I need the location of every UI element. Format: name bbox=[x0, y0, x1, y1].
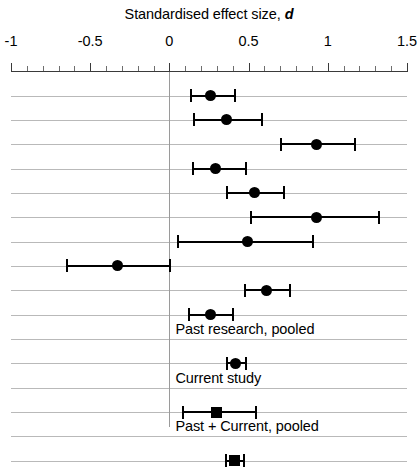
ci-cap-upper bbox=[234, 89, 236, 102]
ci-cap-lower bbox=[177, 235, 179, 248]
ci-cap-lower bbox=[193, 113, 195, 126]
x-tick-label: 1.5 bbox=[377, 33, 418, 49]
group-label: Past + Current, pooled bbox=[175, 418, 318, 434]
effect-size-marker-circle bbox=[311, 212, 322, 223]
effect-size-marker-circle bbox=[205, 90, 216, 101]
effect-size-marker-circle bbox=[249, 187, 260, 198]
effect-size-marker-circle bbox=[261, 285, 272, 296]
effect-size-marker-circle bbox=[221, 114, 232, 125]
ci-cap-lower bbox=[190, 89, 192, 102]
ci-cap-upper bbox=[283, 186, 285, 199]
chart-title: Standardised effect size,d bbox=[0, 6, 418, 22]
chart-title-symbol: d bbox=[281, 6, 294, 22]
x-tick-label: -1 bbox=[0, 33, 41, 49]
ci-cap-upper bbox=[378, 211, 380, 224]
effect-size-marker-circle bbox=[242, 236, 253, 247]
effect-size-marker-square bbox=[211, 407, 222, 418]
ci-cap-lower bbox=[66, 259, 68, 272]
effect-size-marker-circle bbox=[230, 358, 241, 369]
ci-cap-upper bbox=[232, 308, 234, 321]
gridline bbox=[11, 193, 407, 194]
gridline bbox=[11, 388, 407, 389]
group-label: Past research, pooled bbox=[175, 321, 314, 337]
ci-cap-lower bbox=[250, 211, 252, 224]
ci-cap-lower bbox=[244, 284, 246, 297]
chart-title-text: Standardised effect size, bbox=[125, 6, 281, 22]
ci-cap-upper bbox=[261, 113, 263, 126]
ci-cap-upper bbox=[243, 454, 245, 467]
effect-size-marker-circle bbox=[205, 309, 216, 320]
gridline bbox=[11, 461, 407, 462]
ci-cap-lower bbox=[182, 406, 184, 419]
x-axis-line bbox=[11, 71, 407, 72]
reference-line-zero bbox=[169, 72, 170, 427]
ci-cap-upper bbox=[169, 259, 171, 272]
x-tick-label: 0 bbox=[139, 33, 199, 49]
ci-cap-lower bbox=[192, 162, 194, 175]
x-major-tick bbox=[407, 63, 408, 72]
ci-cap-upper bbox=[312, 235, 314, 248]
effect-size-marker-circle bbox=[112, 260, 123, 271]
x-tick-label: -0.5 bbox=[60, 33, 120, 49]
ci-cap-upper bbox=[245, 162, 247, 175]
gridline bbox=[11, 290, 407, 291]
gridline bbox=[11, 339, 407, 340]
ci-cap-lower bbox=[226, 186, 228, 199]
x-tick-label: 0.5 bbox=[219, 33, 279, 49]
ci-cap-upper bbox=[245, 357, 247, 370]
ci-cap-lower bbox=[188, 308, 190, 321]
ci-cap-lower bbox=[226, 357, 228, 370]
effect-size-marker-circle bbox=[210, 163, 221, 174]
ci-cap-lower bbox=[225, 454, 227, 467]
x-tick-label: 1 bbox=[298, 33, 358, 49]
ci-cap-upper bbox=[255, 406, 257, 419]
ci-cap-upper bbox=[354, 138, 356, 151]
gridline bbox=[11, 363, 407, 364]
ci-cap-upper bbox=[289, 284, 291, 297]
group-label: Current study bbox=[175, 370, 261, 386]
effect-size-marker-circle bbox=[311, 139, 322, 150]
gridline bbox=[11, 436, 407, 437]
effect-size-marker-square bbox=[229, 455, 240, 466]
ci-cap-lower bbox=[280, 138, 282, 151]
